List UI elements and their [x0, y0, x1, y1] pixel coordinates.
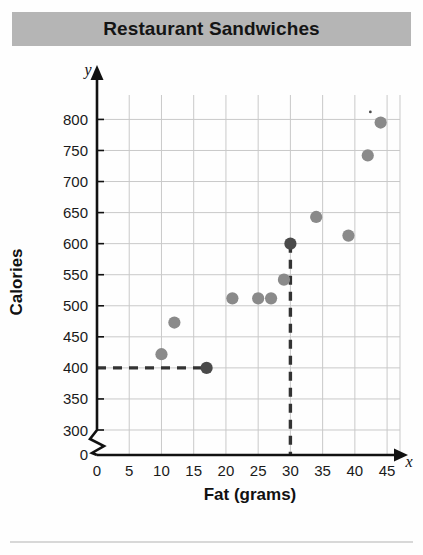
- y-tick-400: 400: [63, 359, 88, 376]
- figure-root: Restaurant Sandwiches 300350400450500550…: [0, 0, 423, 555]
- page-title: Restaurant Sandwiches: [103, 18, 319, 40]
- data-point: [278, 274, 290, 286]
- x-tick-20: 20: [218, 462, 235, 479]
- data-point: [168, 316, 180, 328]
- data-point: [362, 149, 374, 161]
- x-tick-5: 5: [125, 462, 133, 479]
- x-tick-25: 25: [250, 462, 267, 479]
- scatter-plot-area: 300350400450500550600650700750800 051015…: [0, 52, 423, 555]
- y-axis-title: Calories: [7, 248, 26, 315]
- y-tick-300: 300: [63, 422, 88, 439]
- x-tick-30: 30: [282, 462, 299, 479]
- y-axis-zero-label: 0: [80, 446, 88, 463]
- x-axis-tick-labels: 051015202530354045: [93, 462, 396, 479]
- scatter-plot-svg: 300350400450500550600650700750800 051015…: [0, 52, 423, 555]
- data-point: [265, 292, 277, 304]
- gridlines: [97, 95, 400, 455]
- y-tick-700: 700: [63, 173, 88, 190]
- y-tick-800: 800: [63, 111, 88, 128]
- x-tick-10: 10: [153, 462, 170, 479]
- x-tick-45: 45: [379, 462, 396, 479]
- y-tick-350: 350: [63, 390, 88, 407]
- x-axis-title: Fat (grams): [204, 485, 297, 504]
- footer-divider: [10, 541, 413, 543]
- data-point-highlighted: [200, 362, 212, 374]
- x-tick-35: 35: [314, 462, 331, 479]
- y-tick-450: 450: [63, 328, 88, 345]
- y-tick-650: 650: [63, 204, 88, 221]
- data-point: [226, 292, 238, 304]
- x-tick-15: 15: [185, 462, 202, 479]
- stray-mark: [369, 111, 372, 114]
- data-point: [375, 116, 387, 128]
- y-tick-550: 550: [63, 266, 88, 283]
- x-tick-0: 0: [93, 462, 101, 479]
- y-variable-label: y: [82, 61, 92, 79]
- y-tick-600: 600: [63, 235, 88, 252]
- data-point: [310, 211, 322, 223]
- y-axis-arrowhead: [91, 65, 104, 80]
- data-point: [342, 229, 354, 241]
- y-tick-500: 500: [63, 297, 88, 314]
- chart-title-banner: Restaurant Sandwiches: [12, 12, 411, 46]
- x-tick-40: 40: [347, 462, 364, 479]
- data-point-highlighted: [284, 238, 296, 250]
- x-variable-label: x: [404, 453, 412, 470]
- y-tick-750: 750: [63, 142, 88, 159]
- data-point: [155, 348, 167, 360]
- data-point: [252, 292, 264, 304]
